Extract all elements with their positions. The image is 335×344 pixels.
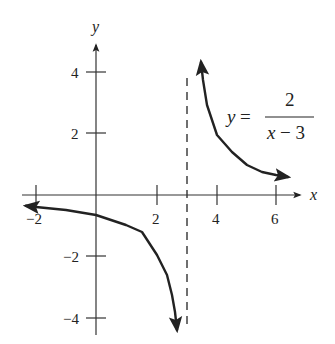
x-tick-label: −2 bbox=[26, 211, 42, 227]
x-tick-label: 6 bbox=[271, 211, 279, 227]
graph: −2 2 4 6 4 2 −2 −4 x y y = 2 x − 3 bbox=[0, 0, 335, 344]
svg-text:y: y bbox=[225, 106, 236, 127]
x-axis-label: x bbox=[309, 186, 317, 203]
svg-text:2: 2 bbox=[285, 89, 295, 110]
x-tick-label: 2 bbox=[152, 211, 160, 227]
y-tick-label: −2 bbox=[63, 249, 79, 265]
y-axis-label: y bbox=[90, 18, 100, 36]
y-tick-label: 2 bbox=[71, 126, 79, 142]
svg-text:x: x bbox=[266, 122, 276, 143]
equation-label: y = 2 x − 3 bbox=[225, 89, 314, 143]
svg-text:− 3: − 3 bbox=[280, 122, 305, 143]
y-tick-label: 4 bbox=[71, 65, 79, 81]
y-tick-label: −4 bbox=[63, 311, 79, 327]
svg-text:=: = bbox=[240, 106, 251, 127]
x-tick-label: 4 bbox=[212, 211, 220, 227]
